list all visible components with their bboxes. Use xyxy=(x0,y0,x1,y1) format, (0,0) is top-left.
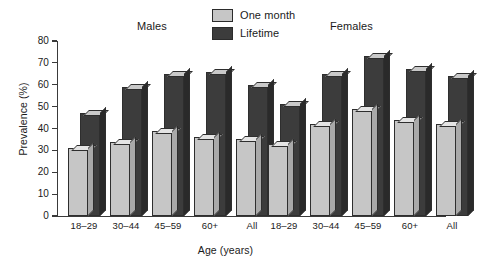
y-tick-label-10: 10 xyxy=(9,189,49,199)
x-tick-label-females-All: All xyxy=(426,221,478,231)
bar-one-month-females-All-front-face xyxy=(436,124,456,216)
y-tick-label-70: 70 xyxy=(9,58,49,68)
bar-one-month-females-60+ xyxy=(394,117,414,216)
bar-lifetime-males-4559-side-face xyxy=(184,68,190,216)
bar-one-month-males-60+-side-face xyxy=(214,131,220,216)
bar-one-month-males-4559-front-face xyxy=(152,131,172,216)
y-tick-20 xyxy=(52,172,57,173)
bar-one-month-females-1829 xyxy=(268,141,288,216)
bar-one-month-females-4559-side-face xyxy=(372,103,378,216)
y-tick-label-0: 0 xyxy=(9,211,49,221)
bar-one-month-females-4559 xyxy=(352,106,372,216)
bar-one-month-males-3044-front-face xyxy=(110,142,130,216)
y-axis-line xyxy=(57,41,58,217)
bar-one-month-males-60+-front-face xyxy=(194,137,214,216)
bar-one-month-females-3044 xyxy=(310,121,330,216)
bar-one-month-males-All-front-face xyxy=(236,139,256,216)
bar-lifetime-males-1829-side-face xyxy=(100,107,106,216)
bar-one-month-males-4559-side-face xyxy=(172,125,178,216)
y-tick-60 xyxy=(52,84,57,85)
y-tick-label-50: 50 xyxy=(9,102,49,112)
bar-lifetime-males-60+-side-face xyxy=(226,66,232,216)
y-tick-50 xyxy=(52,106,57,107)
y-tick-10 xyxy=(52,194,57,195)
y-tick-0 xyxy=(52,215,57,216)
y-tick-70 xyxy=(52,62,57,63)
y-tick-30 xyxy=(52,150,57,151)
y-tick-40 xyxy=(52,128,57,129)
bar-one-month-females-All-side-face xyxy=(456,118,462,216)
bar-one-month-males-3044 xyxy=(110,139,130,216)
bar-one-month-males-60+ xyxy=(194,134,214,216)
y-tick-80 xyxy=(52,40,57,41)
bar-one-month-females-3044-side-face xyxy=(330,118,336,216)
bar-one-month-males-3044-side-face xyxy=(130,136,136,216)
bar-one-month-females-3044-front-face xyxy=(310,124,330,216)
bar-lifetime-females-All-side-face xyxy=(468,70,474,216)
bar-one-month-females-1829-front-face xyxy=(268,144,288,216)
bar-one-month-females-4559-front-face xyxy=(352,109,372,216)
bar-lifetime-females-3044-side-face xyxy=(342,68,348,216)
bar-one-month-females-60+-side-face xyxy=(414,114,420,216)
y-tick-label-80: 80 xyxy=(9,36,49,46)
bar-one-month-males-All-side-face xyxy=(256,133,262,216)
y-tick-label-30: 30 xyxy=(9,145,49,155)
bar-one-month-males-1829-side-face xyxy=(88,142,94,216)
bar-lifetime-females-4559-side-face xyxy=(384,50,390,216)
bar-one-month-females-1829-side-face xyxy=(288,138,294,216)
x-axis-line xyxy=(57,216,446,217)
y-tick-label-40: 40 xyxy=(9,124,49,134)
bar-lifetime-males-3044-side-face xyxy=(142,81,148,216)
bar-one-month-females-All xyxy=(436,121,456,216)
bar-one-month-males-4559 xyxy=(152,128,172,216)
bar-one-month-males-1829 xyxy=(68,145,88,216)
bar-one-month-females-60+-front-face xyxy=(394,120,414,216)
y-tick-label-60: 60 xyxy=(9,80,49,90)
y-tick-label-20: 20 xyxy=(9,167,49,177)
bar-lifetime-females-1829-side-face xyxy=(300,98,306,216)
bar-lifetime-females-60+-side-face xyxy=(426,63,432,216)
bar-one-month-males-All xyxy=(236,136,256,216)
bar-one-month-males-1829-front-face xyxy=(68,148,88,216)
